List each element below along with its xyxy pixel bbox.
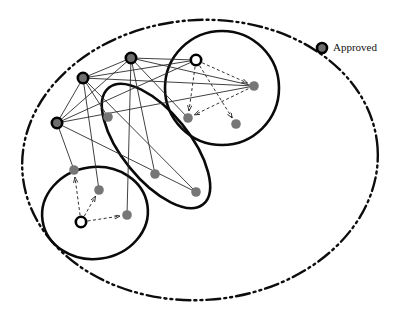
edge-a1-a2 (83, 58, 131, 78)
legend-label-0: Approved (333, 41, 377, 53)
edge-a1-p9 (127, 58, 131, 215)
legend-layer: Approved (317, 41, 377, 53)
edge-a2-p1 (83, 78, 254, 86)
approved-node-a1[interactable] (126, 53, 136, 63)
approved-node-icon (317, 43, 327, 53)
node-p4[interactable] (103, 112, 113, 122)
node-p6[interactable] (191, 187, 201, 197)
edge-a2-p8 (83, 78, 99, 190)
figure-container: Approved (0, 0, 406, 315)
outer-boundary-layer (13, 8, 388, 312)
edge-a3-h1 (57, 60, 196, 123)
node-p3[interactable] (231, 119, 241, 129)
node-layer (52, 53, 259, 227)
node-p7[interactable] (69, 165, 79, 175)
arrow-h1-p2 (189, 67, 195, 111)
node-p9[interactable] (122, 210, 132, 220)
node-p1[interactable] (249, 81, 259, 91)
approved-node-a3[interactable] (52, 118, 62, 128)
arrow-h2-p9 (88, 216, 120, 221)
edge-a1-p5 (131, 58, 155, 174)
outer-boundary (13, 8, 388, 312)
node-p2[interactable] (183, 113, 193, 123)
edge-a1-a3 (57, 58, 131, 123)
cluster-ellipse-middle[interactable] (82, 66, 229, 225)
edge-a2-p6 (83, 78, 196, 192)
hollow-node-top-right[interactable] (191, 55, 201, 65)
arrow-h2-p8 (84, 196, 95, 216)
network-diagram: Approved (0, 0, 406, 315)
approved-node-a2[interactable] (78, 73, 88, 83)
node-p8[interactable] (94, 185, 104, 195)
edge-a1-h1 (131, 58, 196, 60)
edge-a3-p6 (57, 123, 196, 192)
arrow-h2-p7 (75, 177, 80, 215)
legend-approved[interactable]: Approved (317, 41, 377, 53)
cluster-circle-top-right[interactable] (165, 31, 279, 145)
edge-a2-a3 (57, 78, 83, 123)
hollow-node-bottom-left[interactable] (76, 217, 86, 227)
edge-a2-p4 (83, 78, 108, 117)
arrow-p1-p2 (195, 89, 249, 115)
node-p5[interactable] (150, 169, 160, 179)
